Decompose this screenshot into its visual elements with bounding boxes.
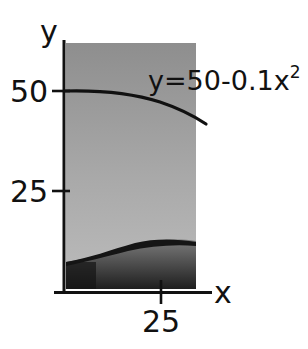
y-tick-label-25: 25 [10,174,48,209]
equation-exponent: 2 [290,62,301,82]
equation-label: y=50-0.1x2 [148,62,300,96]
x-tick-label-25: 25 [142,304,180,339]
equation-main: y=50-0.1x [148,65,290,96]
x-axis-label: x [214,275,232,310]
parabola-diagram: y x 50 25 25 y=50-0.1x2 [0,0,308,349]
y-axis-label: y [40,14,58,49]
dark-floor-base [66,262,96,289]
y-tick-label-50: 50 [10,74,48,109]
